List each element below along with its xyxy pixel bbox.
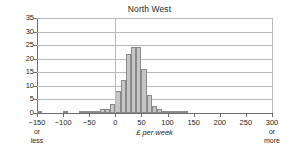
histogram-chart: North West 05101520253035 −150orless−100… <box>0 0 299 163</box>
y-axis-tick-label: 30 <box>4 28 34 36</box>
zero-reference-line <box>115 18 116 113</box>
x-axis-tick-mark <box>272 114 273 117</box>
x-axis-title: £ per week <box>100 128 210 137</box>
gridline-y <box>37 45 272 46</box>
histogram-bar <box>183 111 188 113</box>
y-axis-tick-mark <box>33 86 37 87</box>
plot-area <box>37 18 272 113</box>
x-axis-line <box>37 113 273 114</box>
x-axis-tick-mark <box>168 114 169 117</box>
x-axis-tick-mark <box>63 114 64 117</box>
gridline-y <box>37 99 272 100</box>
y-axis-tick-label: 10 <box>4 82 34 90</box>
y-axis-tick-mark <box>33 32 37 33</box>
plot-right-border <box>272 18 273 114</box>
x-axis-tick-mark <box>37 114 38 117</box>
histogram-bar <box>63 111 68 113</box>
x-axis-tick-mark <box>141 114 142 117</box>
x-axis-tick-label: 300 <box>252 119 292 128</box>
y-axis-tick-mark <box>33 72 37 73</box>
gridline-y <box>37 59 272 60</box>
y-axis-tick-label: 5 <box>4 95 34 103</box>
x-axis-tick-mark <box>194 114 195 117</box>
gridline-y <box>37 32 272 33</box>
gridline-y <box>37 18 272 19</box>
y-axis-tick-mark <box>33 59 37 60</box>
y-axis-tick-mark <box>33 45 37 46</box>
y-axis-tick-mark <box>33 99 37 100</box>
y-axis-tick-label: 20 <box>4 55 34 63</box>
chart-title: North West <box>0 4 299 14</box>
x-axis-tick-sublabel: ormore <box>252 128 292 145</box>
x-axis-tick-mark <box>220 114 221 117</box>
y-axis-tick-label: 0 <box>4 109 34 117</box>
x-axis-tick-mark <box>246 114 247 117</box>
y-axis-tick-label: 25 <box>4 41 34 49</box>
y-axis-tick-mark <box>33 18 37 19</box>
gridline-y <box>37 86 272 87</box>
histogram-bar <box>37 111 42 113</box>
x-axis-tick-mark <box>115 114 116 117</box>
x-axis-tick-sublabel: orless <box>17 128 57 145</box>
gridline-y <box>37 72 272 73</box>
y-axis-tick-label: 35 <box>4 14 34 22</box>
y-axis-tick-label: 15 <box>4 68 34 76</box>
x-axis-tick-mark <box>89 114 90 117</box>
